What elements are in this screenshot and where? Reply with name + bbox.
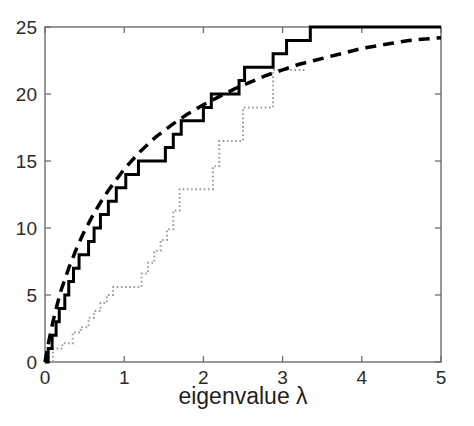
y-tick-label: 0 [26, 352, 37, 373]
x-tick-label: 5 [436, 367, 447, 388]
y-axis-tick-labels: 0510152025 [16, 17, 37, 373]
y-tick-label: 25 [16, 17, 37, 38]
y-tick-label: 15 [16, 151, 37, 172]
x-axis-title: eigenvalue λ [178, 383, 308, 409]
y-tick-label: 5 [26, 285, 37, 306]
plot-canvas: 012345 0510152025 eigenvalue λ [0, 0, 474, 426]
x-tick-label: 0 [40, 367, 51, 388]
x-tick-label: 1 [119, 367, 130, 388]
plot-area-background [45, 27, 441, 362]
x-tick-label: 4 [357, 367, 368, 388]
y-tick-label: 10 [16, 218, 37, 239]
y-tick-label: 20 [16, 84, 37, 105]
chart-figure: 012345 0510152025 eigenvalue λ [0, 0, 474, 426]
